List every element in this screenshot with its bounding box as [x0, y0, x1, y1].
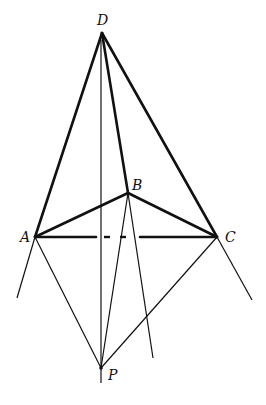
edge-d-a — [35, 33, 102, 237]
line-a-to-p — [35, 237, 101, 368]
edge-a-b — [35, 193, 128, 237]
line-c-extension-right — [217, 237, 252, 300]
label-c: C — [225, 229, 236, 245]
label-a: A — [18, 229, 30, 245]
label-d: D — [96, 12, 108, 28]
label-p: P — [107, 367, 118, 383]
point-p-dot — [99, 366, 103, 370]
label-b: B — [131, 177, 142, 193]
line-a-extension-left — [17, 237, 35, 298]
pyramid-diagram: D A B C P — [0, 0, 266, 405]
